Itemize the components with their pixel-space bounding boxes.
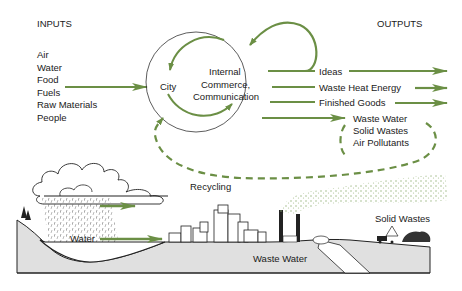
trees-icon — [21, 206, 31, 220]
waste-item: Air Pollutants — [353, 137, 409, 148]
air-pollution-smoke — [279, 174, 448, 214]
inputs-header: INPUTS — [37, 18, 72, 29]
rain-clouds-illustration — [33, 163, 168, 204]
city-system-diagram: INPUTS OUTPUTS Air Water Food Fuels Raw … — [0, 0, 462, 291]
internal-label: Commerce, — [201, 79, 250, 90]
factory-building — [283, 236, 297, 242]
input-item: Air — [37, 49, 49, 60]
input-item: Fuels — [37, 87, 60, 98]
input-item: Raw Materials — [37, 99, 97, 110]
waste-water-label: Waste Water — [253, 253, 307, 264]
solid-wastes-label: Solid Wastes — [375, 213, 430, 224]
input-item: Food — [37, 74, 59, 85]
internal-label: Communication — [193, 91, 259, 102]
input-item: Water — [37, 62, 62, 73]
treatment-dome-icon — [313, 236, 329, 244]
output-ideas: Ideas — [319, 66, 342, 77]
smokestack-icon — [279, 210, 283, 242]
waste-pile-icon — [402, 231, 430, 242]
waste-item: Solid Wastes — [353, 125, 408, 136]
city-label: City — [160, 81, 177, 92]
dump-truck-icon — [377, 226, 398, 244]
output-waste-heat: Waste Heat Energy — [319, 82, 401, 93]
ideas-feedback-loop-arrow — [250, 23, 316, 71]
internal-label: Internal — [209, 66, 241, 77]
input-item: People — [37, 112, 67, 123]
water-label: Water — [70, 233, 95, 244]
outputs-header: OUTPUTS — [377, 18, 422, 29]
waste-item: Waste Water — [353, 113, 407, 124]
city-skyline-illustration — [169, 205, 266, 242]
recycling-label: Recycling — [190, 181, 231, 192]
output-finished-goods: Finished Goods — [319, 97, 386, 108]
